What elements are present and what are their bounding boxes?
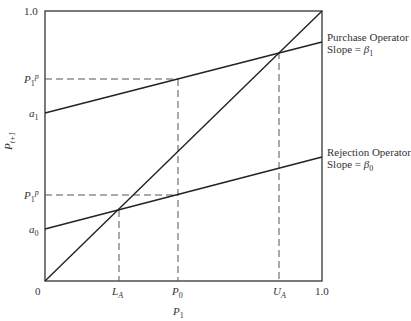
purchase-slope-prefix: Slope = [327, 43, 364, 55]
x-tick-1: 1.0 [315, 286, 329, 297]
rejection-operator-annotation: Rejection Operator Slope = β0 [327, 146, 411, 175]
rejection-operator-title: Rejection Operator [327, 146, 411, 158]
ua-main: U [273, 285, 281, 297]
purchase-operator-line [45, 42, 322, 113]
rejection-operator-line [45, 157, 322, 229]
p1p-lower-sup: p [35, 188, 39, 197]
ylabel-sub: t+1 [8, 132, 17, 144]
y-tick-a1: a1 [29, 108, 39, 122]
y-tick-a0: a0 [29, 224, 39, 238]
y-axis-label: Pt+1 [2, 132, 17, 150]
ua-sub: A [281, 291, 286, 300]
xlabel-sub: 1 [180, 311, 184, 320]
xlabel-main: P [173, 305, 180, 317]
purchase-operator-annotation: Purchase Operator Slope = β1 [327, 31, 409, 60]
diagonal-line [45, 11, 322, 281]
rejection-operator-slope: Slope = β0 [327, 158, 411, 175]
x-tick-p0: P0 [172, 286, 183, 300]
p1p-lower-main: P [24, 189, 31, 201]
rejection-slope-sub: 0 [369, 164, 373, 173]
purchase-operator-slope: Slope = β1 [327, 43, 409, 60]
x-tick-origin: 0 [35, 286, 41, 297]
y-tick-p1p-upper: P1p [24, 73, 39, 88]
p0-sub: 0 [179, 291, 183, 300]
ylabel-main: P [2, 143, 14, 150]
y-tick-1: 1.0 [24, 6, 38, 17]
x-axis-label: P1 [173, 306, 184, 320]
rejection-slope-prefix: Slope = [327, 158, 364, 170]
a0-sub: 0 [35, 229, 39, 238]
p1p-upper-sup: p [35, 72, 39, 81]
purchase-operator-title: Purchase Operator [327, 31, 409, 43]
a1-sub: 1 [35, 113, 39, 122]
p1p-upper-main: P [24, 73, 31, 85]
p0-main: P [172, 285, 179, 297]
purchase-slope-sub: 1 [369, 49, 373, 58]
x-tick-ua: UA [273, 286, 286, 300]
la-sub: A [118, 291, 123, 300]
x-tick-la: LA [112, 286, 123, 300]
y-tick-p1p-lower: P1p [24, 189, 39, 204]
